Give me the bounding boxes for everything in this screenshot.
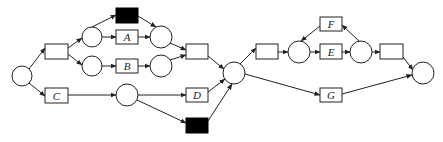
place-p_end xyxy=(412,62,434,84)
arc-p4-to-t_join1 xyxy=(170,55,186,60)
transition-label: D xyxy=(192,89,201,101)
transition-t_A: A xyxy=(116,30,138,44)
arc-p_start-to-t_C xyxy=(29,83,45,96)
arc-t_join1-to-p_join xyxy=(208,56,224,69)
arc-p3-to-t_join1 xyxy=(170,43,186,50)
transition-t_join2 xyxy=(380,44,403,59)
transition-label: B xyxy=(124,60,131,72)
place-p7 xyxy=(350,41,372,63)
silent-transition-box xyxy=(186,118,208,133)
place-p_join xyxy=(223,62,245,84)
arc-t_F-to-p6 xyxy=(301,26,320,41)
transition-t_skip2 xyxy=(186,118,208,133)
transition-label: F xyxy=(327,18,335,30)
arc-t_G-to-p_end xyxy=(342,75,412,94)
transition-t_C: C xyxy=(45,88,68,103)
place-p2 xyxy=(82,56,102,76)
transition-label: E xyxy=(327,46,335,58)
transition-t_split2 xyxy=(256,44,278,59)
arc-t_split-to-p1 xyxy=(68,38,82,48)
arc-p_start-to-t_split xyxy=(29,48,45,69)
place-p6 xyxy=(288,41,310,63)
transition-box xyxy=(256,44,278,59)
transition-label: A xyxy=(123,31,131,43)
places-layer xyxy=(12,26,434,106)
transition-box xyxy=(186,44,208,59)
transition-t_G: G xyxy=(320,88,342,102)
arc-t_split-to-p2 xyxy=(68,54,82,65)
arc-p5-to-t_skip2 xyxy=(137,100,186,123)
transition-t_F: F xyxy=(320,17,342,31)
petri-net-diagram: CABDFEG xyxy=(0,0,443,142)
transition-label: G xyxy=(327,89,335,101)
transition-box xyxy=(45,44,68,59)
place-p4 xyxy=(150,55,172,77)
transition-box xyxy=(380,44,403,59)
place-p1 xyxy=(82,27,102,47)
arc-p1-to-t_skip1 xyxy=(92,15,116,27)
transition-label: C xyxy=(53,90,61,102)
arc-p_join-to-t_split2 xyxy=(240,48,256,64)
transition-t_skip1 xyxy=(116,8,138,23)
silent-transition-box xyxy=(116,8,138,23)
place-p3 xyxy=(150,26,172,48)
transition-t_split xyxy=(45,44,68,59)
transition-t_join1 xyxy=(186,44,208,59)
arc-p7-to-t_F xyxy=(342,25,359,41)
arc-t_skip1-to-p3 xyxy=(138,16,156,27)
arc-t_join2-to-p_end xyxy=(403,57,413,70)
transition-t_E: E xyxy=(320,44,342,59)
place-p_start xyxy=(12,66,32,86)
arc-t_D-to-p_join xyxy=(208,79,225,92)
arc-p_join-to-t_G xyxy=(245,74,320,95)
place-p5 xyxy=(116,84,138,106)
transition-t_D: D xyxy=(186,88,208,102)
transition-t_B: B xyxy=(116,59,138,73)
